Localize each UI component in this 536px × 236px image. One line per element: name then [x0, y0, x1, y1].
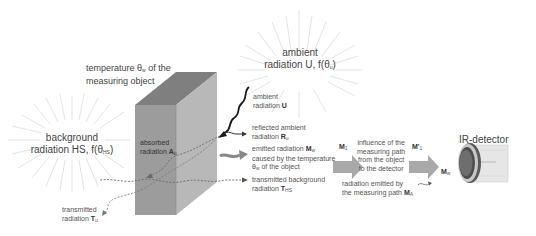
arrow-m1-prime	[409, 155, 439, 179]
ambient-radiation-label: ambient radiation U	[253, 93, 287, 110]
absorbed-radiation-label: absorbed radiation Au	[140, 139, 177, 157]
m1-prime-label: M'1	[412, 143, 422, 153]
mw-label: Mw	[441, 168, 450, 178]
reflected-radiation-label: reflected ambient radiation Ru	[252, 124, 306, 142]
ambient-radiation-wave	[222, 87, 249, 135]
object-temperature-label: temperature θw of the measuring object	[86, 63, 171, 87]
emitted-radiation-arrow	[220, 155, 240, 157]
path-emission-label: radiation emitted by the measuring path …	[342, 180, 413, 198]
diagram-graphics	[0, 0, 536, 236]
emitted-radiation-label: emitted radiation Mw caused by the tempe…	[252, 145, 335, 173]
path-emission-arrow	[418, 184, 429, 185]
ir-detector-icon	[458, 143, 508, 183]
transmitted-background-label: transmitted background radiation THS	[252, 176, 325, 194]
m1-label: M1	[339, 143, 348, 153]
transmitted-radiation-label: transmitted radiation Tu	[62, 206, 98, 224]
measuring-path-influence-label: influence of the measuring path from the…	[357, 139, 405, 173]
background-radiation-heading: background radiation HS, f(θHS)	[22, 132, 122, 158]
ir-detector-title: IR-detector	[459, 134, 508, 146]
reflected-radiation-arrow	[224, 132, 244, 134]
ambient-radiation-heading: ambient radiation U, f(θu)	[262, 47, 338, 73]
